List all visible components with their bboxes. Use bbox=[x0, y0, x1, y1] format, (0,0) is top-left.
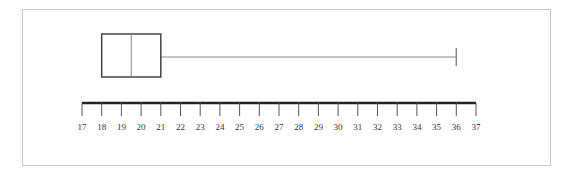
tick-label: 32 bbox=[373, 122, 382, 132]
tick-label: 23 bbox=[196, 122, 206, 132]
tick-label: 19 bbox=[117, 122, 127, 132]
tick-label: 28 bbox=[294, 122, 304, 132]
tick-label: 30 bbox=[334, 122, 344, 132]
tick-label: 24 bbox=[215, 122, 225, 132]
box-plot-chart: 1718192021222324252627282930313233343536… bbox=[0, 0, 574, 179]
tick-label: 34 bbox=[412, 122, 422, 132]
tick-label: 17 bbox=[78, 122, 88, 132]
tick-label: 37 bbox=[472, 122, 482, 132]
tick-label: 31 bbox=[353, 122, 362, 132]
tick-label: 21 bbox=[156, 122, 165, 132]
box-plot bbox=[102, 34, 457, 77]
x-axis: 1718192021222324252627282930313233343536… bbox=[78, 103, 482, 132]
tick-label: 25 bbox=[235, 122, 245, 132]
tick-label: 35 bbox=[432, 122, 442, 132]
tick-label: 33 bbox=[393, 122, 403, 132]
tick-label: 20 bbox=[137, 122, 147, 132]
tick-label: 36 bbox=[452, 122, 462, 132]
tick-label: 18 bbox=[97, 122, 107, 132]
tick-label: 22 bbox=[176, 122, 185, 132]
tick-label: 27 bbox=[275, 122, 285, 132]
tick-label: 26 bbox=[255, 122, 265, 132]
tick-label: 29 bbox=[314, 122, 324, 132]
